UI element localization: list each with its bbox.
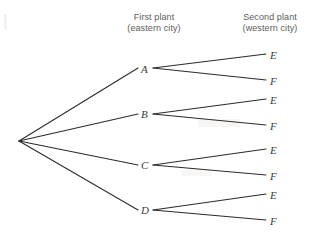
leaf-label-a-e: E xyxy=(270,50,277,61)
node-label-a: A xyxy=(141,64,148,75)
leaf-label-b-e: E xyxy=(270,95,277,106)
column-header-second-plant-line2: (western city) xyxy=(224,23,316,34)
branch-d-to-f xyxy=(153,210,266,220)
branch-root-to-d xyxy=(19,141,138,210)
leaf-label-d-f: F xyxy=(270,216,277,227)
leaf-label-a-f: F xyxy=(270,76,277,87)
leaf-label-b-f: F xyxy=(270,121,277,132)
leaf-label-c-f: F xyxy=(270,171,277,182)
column-header-first-plant: First plant (eastern city) xyxy=(104,12,204,34)
node-label-c: C xyxy=(141,160,148,171)
probability-tree-diagram: First plant (eastern city) Second plant … xyxy=(0,0,316,242)
branch-root-to-b xyxy=(19,114,138,141)
node-label-b: B xyxy=(141,109,148,120)
branch-c-to-f xyxy=(153,165,266,175)
branch-a-to-f xyxy=(153,68,266,80)
column-header-first-plant-line2: (eastern city) xyxy=(104,23,204,34)
branch-root-to-a xyxy=(19,68,138,141)
branch-a-to-e xyxy=(153,54,266,68)
branch-b-to-e xyxy=(153,99,266,114)
column-header-first-plant-line1: First plant xyxy=(104,12,204,23)
tree-branches xyxy=(0,0,316,242)
leaf-label-c-e: E xyxy=(270,145,277,156)
leaf-label-d-e: E xyxy=(270,190,277,201)
branch-b-to-f xyxy=(153,114,266,125)
branch-d-to-e xyxy=(153,194,266,210)
node-label-d: D xyxy=(141,205,149,216)
branch-root-to-c xyxy=(19,141,138,165)
branch-c-to-e xyxy=(153,149,266,165)
column-header-second-plant: Second plant (western city) xyxy=(224,12,316,34)
column-header-second-plant-line1: Second plant xyxy=(224,12,316,23)
